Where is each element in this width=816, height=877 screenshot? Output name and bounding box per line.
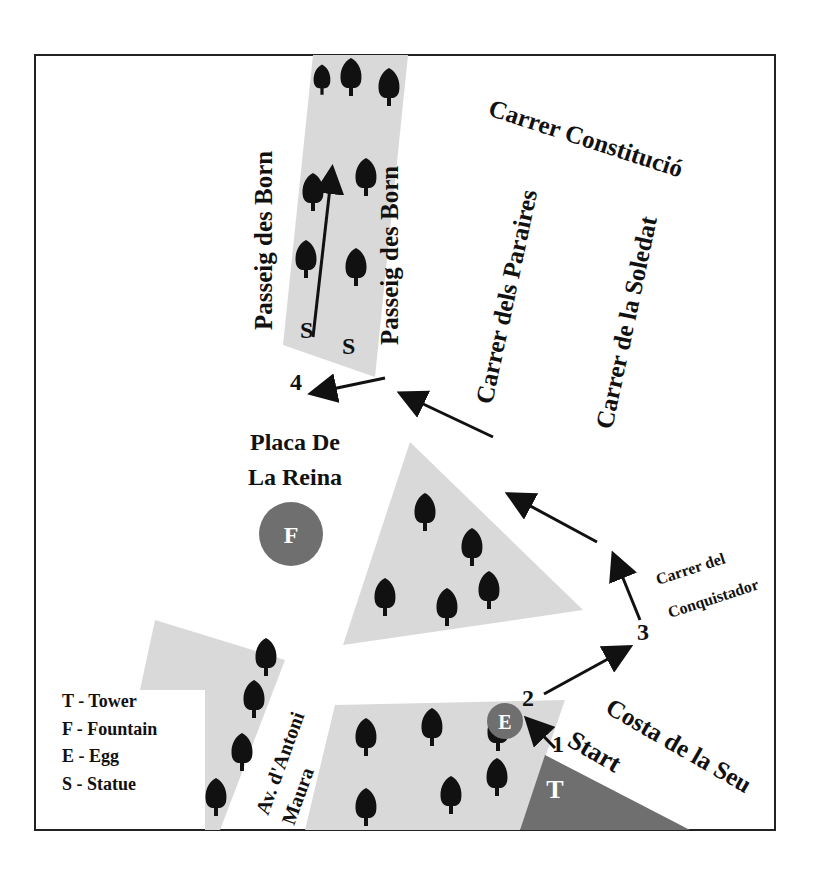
statue-right-label: S (342, 333, 355, 359)
legend-fountain: F - Fountain (62, 719, 157, 739)
place-placa-de-la-reina-line1: Placa De (250, 429, 340, 455)
street-passeig-left: Passeig des Born (250, 151, 277, 330)
legend-tower: T - Tower (62, 691, 137, 711)
fountain-label: F (284, 522, 299, 548)
legend-statue: S - Statue (62, 774, 136, 794)
egg-marker: E (487, 703, 523, 739)
route-step-2: 2 (522, 685, 534, 711)
legend-egg: E - Egg (62, 746, 119, 766)
route-step-3: 3 (637, 619, 649, 645)
statue-left-label: S (300, 317, 313, 343)
street-passeig-right: Passeig des Born (376, 166, 403, 345)
route-step-4: 4 (290, 369, 302, 395)
fountain-marker: F (259, 502, 323, 566)
route-step-1: 1 (552, 731, 564, 757)
egg-label: E (498, 711, 511, 733)
route-map: F E T S S 1 2 3 4 Passeig des Born Passe… (0, 0, 816, 877)
place-placa-de-la-reina-line2: La Reina (248, 464, 342, 490)
tower-label: T (546, 775, 563, 804)
